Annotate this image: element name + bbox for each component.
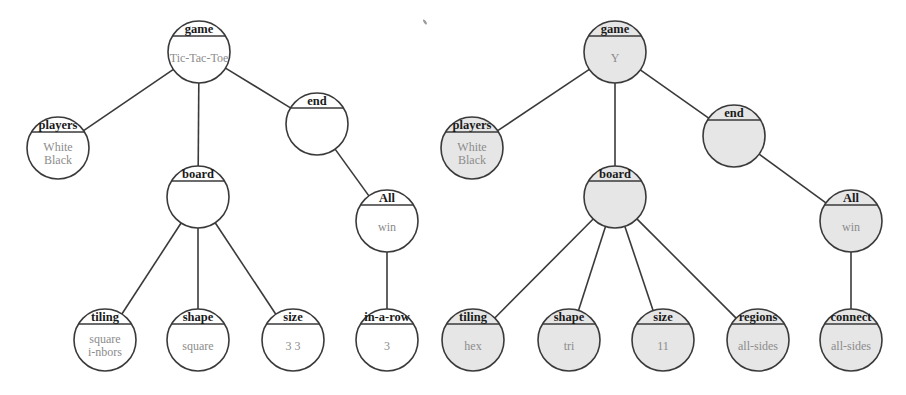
node-value: win [842, 220, 860, 234]
node-label: tiling [91, 310, 120, 324]
node-game: gameY [584, 21, 646, 83]
node-label: board [182, 167, 214, 181]
edge-board-size [215, 223, 276, 314]
node-label: end [307, 94, 327, 108]
node-value: 3 [384, 339, 390, 353]
edge-game-players [84, 69, 174, 130]
node-shape: shapesquare [167, 309, 229, 371]
node-value: Y [611, 51, 620, 65]
node-value: i-nbors [88, 345, 122, 359]
node-game: gameTic-Tac-Toe [168, 21, 230, 83]
game-tree-diagrams: gameTic-Tac-ToeplayersWhiteBlackendboard… [0, 0, 906, 395]
edge-game-players [498, 69, 590, 130]
edge-board-size [625, 226, 653, 310]
node-value: 11 [657, 339, 669, 353]
node-label: tiling [459, 310, 488, 324]
tic-tac-toe-nodes: gameTic-Tac-ToeplayersWhiteBlackendboard… [27, 21, 418, 371]
edge-end-all [335, 149, 369, 196]
node-regions: regionsall-sides [727, 309, 789, 371]
node-label: regions [739, 310, 778, 324]
node-value: hex [464, 339, 481, 353]
node-value: square [182, 339, 213, 353]
node-end: end [286, 93, 348, 155]
node-size: size3 3 [262, 309, 324, 371]
node-value: White [457, 140, 486, 154]
node-board: board [584, 166, 646, 228]
edge-game-board [198, 83, 199, 166]
node-label: game [601, 22, 630, 36]
y-game-tree: gameYplayersWhiteBlackendboardAllwintili… [441, 21, 882, 371]
node-label: end [724, 106, 744, 120]
node-label: size [653, 310, 673, 324]
node-label: in-a-row [364, 310, 410, 324]
edge-game-end [226, 68, 291, 108]
edge-board-tiling [495, 219, 593, 318]
node-players: playersWhiteBlack [27, 117, 89, 179]
node-value: all-sides [738, 339, 778, 353]
node-value: Black [458, 153, 486, 167]
node-all: Allwin [820, 190, 882, 252]
node-label: size [283, 310, 303, 324]
node-shape: shapetri [538, 309, 600, 371]
node-label: connect [831, 310, 873, 324]
node-tiling: tilingsquarei-nbors [74, 309, 136, 371]
node-label: All [379, 191, 396, 205]
scan-artifact-mark [422, 19, 427, 25]
node-end: end [703, 105, 765, 167]
node-value: White [43, 140, 72, 154]
node-in-a-row: in-a-row3 [356, 309, 418, 371]
node-label: shape [554, 310, 585, 324]
node-label: players [453, 118, 492, 132]
y-game-edges [495, 69, 851, 318]
node-label: All [843, 191, 860, 205]
node-tiling: tilinghex [442, 309, 504, 371]
node-value: square [89, 332, 120, 346]
node-connect: connectall-sides [820, 309, 882, 371]
edge-game-end [640, 70, 708, 118]
edge-end-all [759, 154, 826, 203]
edge-board-shape [579, 227, 606, 311]
tic-tac-toe-tree: gameTic-Tac-ToeplayersWhiteBlackendboard… [27, 21, 418, 371]
node-value: 3 3 [286, 339, 301, 353]
node-label: game [185, 22, 214, 36]
node-value: all-sides [831, 339, 871, 353]
node-value: Black [44, 153, 72, 167]
node-value: win [378, 220, 396, 234]
node-label: players [39, 118, 78, 132]
node-value: Tic-Tac-Toe [170, 51, 229, 65]
node-label: shape [183, 310, 214, 324]
node-size: size11 [632, 309, 694, 371]
node-players: playersWhiteBlack [441, 117, 503, 179]
node-board: board [167, 166, 229, 228]
node-label: board [599, 167, 631, 181]
node-all: Allwin [356, 190, 418, 252]
node-value: tri [564, 339, 575, 353]
edge-board-regions [637, 219, 736, 318]
edge-board-tiling [122, 223, 181, 314]
